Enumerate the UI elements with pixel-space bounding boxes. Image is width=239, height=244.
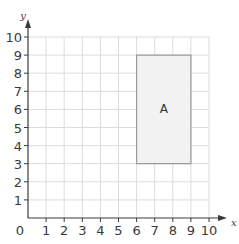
x-tick-label: 10 xyxy=(201,223,218,238)
tick-labels: 12345678910123456789100xy xyxy=(5,10,237,238)
x-tick-label: 9 xyxy=(187,223,195,238)
x-tick-label: 7 xyxy=(151,223,159,238)
y-axis-label: y xyxy=(19,10,26,21)
axes xyxy=(25,19,227,221)
x-tick-label: 4 xyxy=(96,223,104,238)
x-tick-label: 1 xyxy=(42,223,50,238)
shapes-layer: A xyxy=(137,55,191,164)
y-tick-label: 3 xyxy=(14,157,22,172)
y-tick-label: 1 xyxy=(14,193,22,208)
x-tick-label: 3 xyxy=(78,223,86,238)
x-tick-label: 2 xyxy=(60,223,68,238)
x-axis-label: x xyxy=(231,217,237,228)
y-tick-label: 6 xyxy=(14,102,22,117)
shape-label: A xyxy=(160,102,169,116)
x-axis-arrow-icon xyxy=(218,215,227,221)
y-tick-label: 4 xyxy=(14,139,22,154)
y-axis-arrow-icon xyxy=(25,19,31,28)
y-tick-label: 8 xyxy=(14,66,22,81)
y-tick-label: 9 xyxy=(14,48,22,63)
y-tick-label: 5 xyxy=(14,121,22,136)
x-tick-label: 6 xyxy=(132,223,140,238)
x-tick-label: 8 xyxy=(169,223,177,238)
y-tick-label: 2 xyxy=(14,175,22,190)
y-tick-label: 7 xyxy=(14,84,22,99)
y-tick-label: 10 xyxy=(5,30,22,45)
origin-label: 0 xyxy=(16,223,24,238)
x-tick-label: 5 xyxy=(114,223,122,238)
coordinate-grid-chart: A 12345678910123456789100xy xyxy=(0,0,239,244)
